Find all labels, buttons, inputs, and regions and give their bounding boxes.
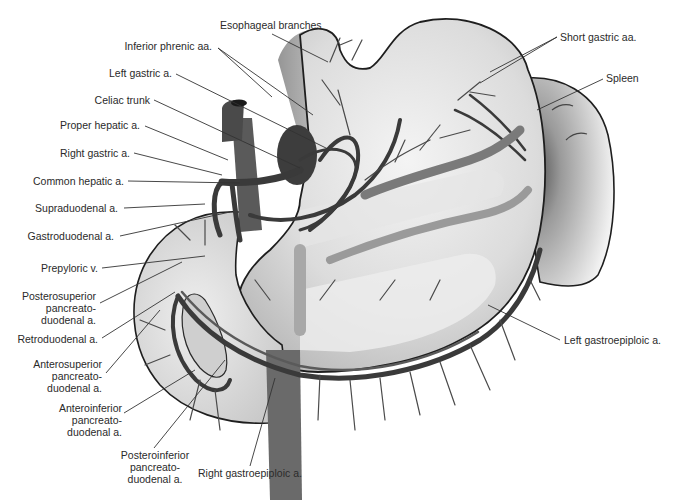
- label-anterosuperior: Anterosuperior pancreato- duodenal a.: [10, 358, 102, 394]
- label-retroduodenal: Retroduodenal a.: [4, 333, 98, 345]
- label-proper-hepatic: Proper hepatic a.: [40, 119, 140, 131]
- label-esophageal-branches: Esophageal branches: [220, 19, 322, 31]
- label-supraduodenal: Supraduodenal a.: [10, 202, 118, 214]
- label-celiac-trunk: Celiac trunk: [60, 94, 150, 106]
- label-line: duodenal a.: [6, 314, 96, 326]
- label-line: Posteroinferior: [110, 449, 200, 461]
- label-line: duodenal a.: [110, 473, 200, 485]
- leader-right-gastric: [134, 153, 222, 175]
- leader-inferior-phrenic-1: [218, 48, 272, 97]
- label-line: duodenal a.: [10, 382, 102, 394]
- leader-supraduodenal: [124, 204, 205, 208]
- label-gastroduodenal: Gastroduodenal a.: [4, 230, 114, 242]
- anatomy-figure: Esophageal branches Inferior phrenic aa.…: [0, 0, 678, 501]
- label-line: Anteroinferior: [30, 402, 122, 414]
- label-posteroinferior: Posteroinferior pancreato- duodenal a.: [110, 449, 200, 485]
- label-right-gastroepiploic: Right gastroepiploic a.: [198, 467, 302, 479]
- label-posterosuperior: Posterosuperior pancreato- duodenal a.: [6, 290, 96, 326]
- label-right-gastric: Right gastric a.: [40, 147, 130, 159]
- label-line: Anterosuperior: [10, 358, 102, 370]
- label-inferior-phrenic: Inferior phrenic aa.: [116, 40, 212, 52]
- label-line: pancreato-: [110, 461, 200, 473]
- label-spleen: Spleen: [606, 72, 639, 84]
- label-left-gastric: Left gastric a.: [80, 67, 172, 79]
- label-line: pancreato-: [6, 302, 96, 314]
- leader-proper-hepatic: [145, 126, 228, 160]
- label-line: pancreato-: [30, 414, 122, 426]
- label-line: pancreato-: [10, 370, 102, 382]
- label-line: Posterosuperior: [6, 290, 96, 302]
- label-common-hepatic: Common hepatic a.: [10, 175, 124, 187]
- label-prepyloric: Prepyloric v.: [10, 262, 98, 274]
- label-line: duodenal a.: [30, 426, 122, 438]
- label-left-gastroepiploic: Left gastroepiploic a.: [564, 334, 661, 346]
- label-short-gastric: Short gastric aa.: [560, 31, 636, 43]
- label-anteroinferior: Anteroinferior pancreato- duodenal a.: [30, 402, 122, 438]
